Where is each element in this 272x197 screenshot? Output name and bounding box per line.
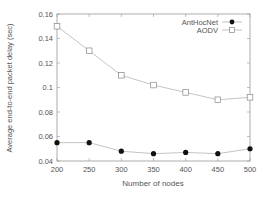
y-tick-label: 0.14 xyxy=(38,34,53,43)
legend-marker-circle xyxy=(230,20,235,25)
series-layer xyxy=(54,23,253,156)
data-point-square xyxy=(54,23,60,29)
x-tick-label: 300 xyxy=(115,165,128,174)
data-point-square xyxy=(183,90,189,96)
data-point-square xyxy=(215,97,221,103)
x-tick-label: 200 xyxy=(51,165,64,174)
x-tick-label: 400 xyxy=(179,165,192,174)
x-tick-label: 250 xyxy=(83,165,96,174)
legend-label: AODV xyxy=(197,26,218,35)
legend-marker-square xyxy=(230,28,235,33)
data-point-circle xyxy=(119,149,124,154)
data-point-square xyxy=(247,95,253,101)
x-tick-label: 350 xyxy=(147,165,160,174)
legend: AntHocNetAODV xyxy=(182,18,242,35)
data-point-circle xyxy=(183,150,188,155)
x-axis-label: Number of nodes xyxy=(122,179,183,188)
y-tick-label: 0.12 xyxy=(38,59,53,68)
y-tick-label: 0.08 xyxy=(38,108,53,117)
data-point-square xyxy=(86,48,92,54)
data-point-circle xyxy=(87,140,92,145)
plot-frame: 0.040.060.080.10.120.140.162002503003504… xyxy=(38,10,256,175)
y-tick-label: 0.1 xyxy=(43,83,53,92)
x-tick-label: 450 xyxy=(212,165,225,174)
data-point-circle xyxy=(151,151,156,156)
x-tick-label: 500 xyxy=(244,165,257,174)
data-point-square xyxy=(151,82,157,88)
y-tick-label: 0.06 xyxy=(38,132,53,141)
series-line-aodv xyxy=(57,26,250,100)
data-point-circle xyxy=(247,146,252,151)
data-point-circle xyxy=(215,151,220,156)
data-point-circle xyxy=(54,140,59,145)
y-axis-label: Average end-to-end packet delay (sec) xyxy=(5,23,14,153)
data-point-square xyxy=(119,72,125,78)
line-chart: 0.040.060.080.10.120.140.162002503003504… xyxy=(0,0,272,197)
y-tick-label: 0.16 xyxy=(38,10,53,19)
